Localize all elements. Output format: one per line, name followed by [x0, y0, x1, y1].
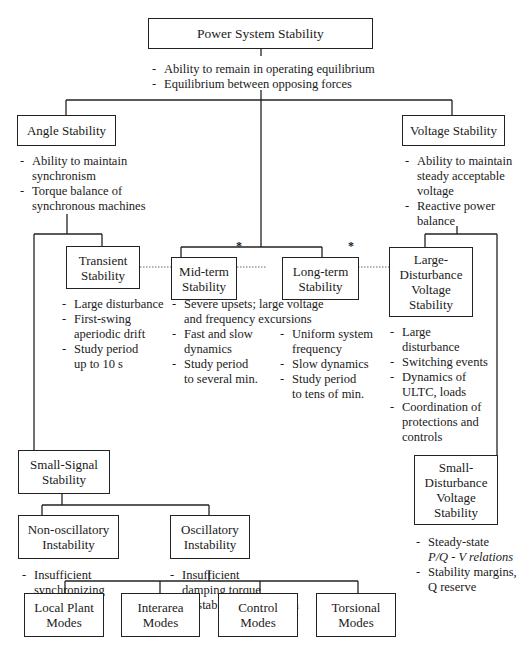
node-label: Torsional Modes: [332, 600, 381, 630]
note: Coordination of protections and controls: [388, 400, 488, 445]
node-interarea-modes: Interarea Modes: [121, 593, 200, 637]
node-label: Control Modes: [238, 600, 278, 630]
node-local-plant-modes: Local Plant Modes: [24, 593, 104, 637]
node-angle-stability: Angle Stability: [17, 115, 116, 146]
node-label: Small- Disturbance Voltage Stability: [425, 460, 488, 520]
node-label: Local Plant Modes: [34, 600, 94, 630]
node-label: Large- Disturbance Voltage Stability: [400, 252, 463, 312]
note: Ability to remain in operating equilibri…: [150, 62, 375, 77]
node-mid-term-stability: Mid-term Stability: [171, 257, 237, 300]
node-long-term-stability: Long-term Stability: [282, 257, 359, 300]
node-label: Interarea Modes: [137, 600, 183, 630]
node-label: Oscillatory Instability: [181, 522, 239, 552]
note: Dynamics of ULTC, loads: [388, 370, 488, 400]
note-text: Q reserve: [428, 580, 476, 594]
asterisk-marker: *: [348, 241, 354, 251]
note: Switching events: [388, 355, 488, 370]
node-label: Non-oscillatory Instability: [28, 522, 110, 552]
node-label: Small-Signal Stability: [30, 457, 98, 487]
node-label: Transient Stability: [79, 253, 128, 283]
node-label: Long-term Stability: [293, 264, 349, 294]
node-label: Voltage Stability: [410, 123, 497, 138]
note: Severe upsets; large voltage and frequen…: [170, 297, 324, 327]
note: Uniform system frequency: [278, 327, 373, 357]
node-label: Angle Stability: [27, 123, 106, 138]
node-small-signal-stability: Small-Signal Stability: [18, 450, 110, 494]
note: Stability margins,Q reserve: [414, 565, 517, 595]
note: Study period up to 10 s: [60, 342, 164, 372]
note: Steady-stateP/Q - V relations: [414, 535, 517, 565]
node-small-disturbance-voltage-stability: Small- Disturbance Voltage Stability: [414, 455, 498, 525]
notes-power-system-stability: Ability to remain in operating equilibri…: [150, 62, 375, 92]
note: Ability to maintain synchronism: [18, 154, 146, 184]
note: Large disturbance: [388, 325, 488, 355]
note: Reactive power balance: [403, 199, 512, 229]
note: Equilibrium between opposing forces: [150, 77, 375, 92]
note-text: P/Q - V relations: [428, 550, 513, 564]
note: Slow dynamics: [278, 357, 373, 372]
node-voltage-stability: Voltage Stability: [402, 115, 505, 146]
node-label: Power System Stability: [197, 26, 324, 41]
node-transient-stability: Transient Stability: [66, 246, 140, 289]
note-text: Stability margins,: [428, 565, 517, 579]
notes-voltage-stability: Ability to maintain steady acceptable vo…: [403, 154, 512, 229]
node-power-system-stability: Power System Stability: [148, 18, 373, 49]
note-text: Steady-state: [428, 535, 489, 549]
note: Large disturbance: [60, 297, 164, 312]
node-label: Mid-term Stability: [179, 264, 229, 294]
notes-transient-stability: Large disturbance First-swing aperiodic …: [60, 297, 164, 372]
note: First-swing aperiodic drift: [60, 312, 164, 342]
notes-angle-stability: Ability to maintain synchronism Torque b…: [18, 154, 146, 214]
note: Ability to maintain steady acceptable vo…: [403, 154, 512, 199]
node-control-modes: Control Modes: [218, 593, 298, 637]
node-non-oscillatory-instability: Non-oscillatory Instability: [18, 515, 119, 559]
note: Study period to tens of min.: [278, 372, 373, 402]
note: Torque balance of synchronous machines: [18, 184, 146, 214]
notes-long-term-stability: Uniform system frequency Slow dynamics S…: [278, 327, 373, 402]
node-oscillatory-instability: Oscillatory Instability: [170, 515, 250, 559]
node-large-disturbance-voltage-stability: Large- Disturbance Voltage Stability: [389, 247, 473, 317]
notes-small-disturbance-voltage-stability: Steady-stateP/Q - V relations Stability …: [414, 535, 517, 595]
notes-large-disturbance-voltage-stability: Large disturbance Switching events Dynam…: [388, 325, 488, 445]
node-torsional-modes: Torsional Modes: [316, 593, 396, 637]
asterisk-marker: *: [236, 241, 242, 251]
